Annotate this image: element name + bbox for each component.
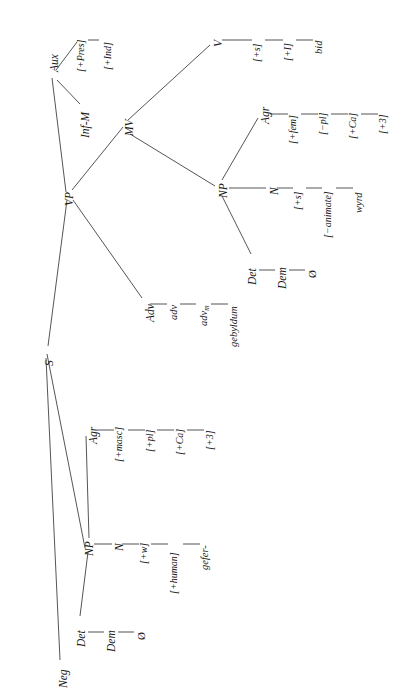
node-np-subject-agr-masc: [+masc] <box>114 427 124 462</box>
edge-aux-infm <box>57 80 80 104</box>
node-aux-ind: [+Ind] <box>103 42 113 70</box>
node-np-object-agr-ca: [+Ca] <box>348 113 358 139</box>
node-np-subject-n-w: [+w] <box>139 543 149 564</box>
node-s: S <box>44 360 56 366</box>
node-adv-lexeme: gebyldum <box>229 306 240 347</box>
edge-s-np-subject <box>47 354 85 548</box>
node-np-object-agr-pl: [−pl] <box>318 113 328 135</box>
node-adv-m: advm <box>199 305 210 326</box>
node-np-object-n-animate: [−animate] <box>323 191 333 238</box>
node-np-object-zero: Ø <box>307 270 318 278</box>
node-np-subject-zero: Ø <box>136 632 147 640</box>
node-np-object-agr: Agr <box>260 107 272 124</box>
node-np-object-n-s: [+s] <box>293 192 303 210</box>
node-v-feature-s: [+s] <box>252 44 262 62</box>
node-np-subject-agr: Agr <box>88 427 100 444</box>
node-v-feature-i: [+I] <box>283 43 293 61</box>
edge-s-neg <box>46 358 60 660</box>
edge-np-object-det <box>222 196 251 254</box>
edge-np-object-agr <box>222 118 258 180</box>
edge-mv-v <box>128 45 210 120</box>
node-np-subject-agr-ca: [+Ca] <box>175 429 185 455</box>
node-neg: Neg <box>58 669 70 688</box>
node-np-object-dem: Dem <box>277 267 289 289</box>
node-np-subject-n-lexeme: gefer- <box>200 545 211 570</box>
node-vp: VP <box>64 192 76 206</box>
node-np-object-n-lexeme: wyrd <box>354 192 365 213</box>
edge-s-vp <box>48 200 67 346</box>
node-np-object-det: Det <box>247 268 259 285</box>
node-np-subject-n: N <box>114 543 126 551</box>
node-np-subject-n-human: [+human] <box>169 552 179 594</box>
node-aux: Aux <box>49 54 61 72</box>
node-adv: Adv <box>145 304 157 322</box>
node-np-subject: NP <box>84 541 96 556</box>
tree-edges <box>0 0 409 698</box>
node-np-object: NP <box>218 183 230 198</box>
node-np-subject-dem: Dem <box>106 630 118 652</box>
node-inf-m: Inf-M <box>80 112 92 138</box>
node-np-object-agr-3: [+3] <box>378 114 388 134</box>
node-np-object-n: N <box>269 187 281 195</box>
edge-mv-np <box>130 134 215 186</box>
node-aux-pres: [+Pres] <box>76 40 86 73</box>
node-mv: MV <box>124 119 136 136</box>
node-v-lexeme: bid <box>314 41 325 54</box>
edge-vp-aux <box>52 78 66 192</box>
edge-np-subject-agr <box>86 436 89 538</box>
syntax-tree-diagram: S Neg VP Aux [+Pres] [+Ind] Inf-M MV V [… <box>0 0 409 698</box>
node-np-subject-agr-pl: [+pl] <box>145 430 155 452</box>
edge-np-subject-det <box>80 552 88 616</box>
node-v: V <box>213 40 225 47</box>
node-adv-lower: adv <box>169 305 180 320</box>
node-np-subject-det: Det <box>76 630 88 647</box>
node-np-subject-agr-3: [+3] <box>205 430 215 450</box>
node-np-object-agr-fem: [+fem] <box>288 115 298 144</box>
edge-vp-adv <box>73 200 142 298</box>
